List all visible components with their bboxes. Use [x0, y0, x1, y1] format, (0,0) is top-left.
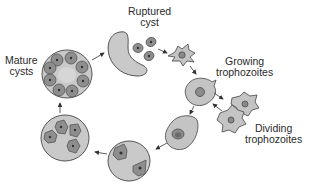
arrow-icon	[213, 104, 222, 111]
label-line: cyst	[128, 17, 171, 28]
arrow-icon	[156, 143, 167, 149]
mature-cyst-icon	[42, 50, 92, 98]
rounding-cell-icon	[165, 116, 198, 150]
arrow-icon	[95, 152, 107, 154]
life-cycle-diagram: Ruptured cyst Growing trophozoites Divid…	[0, 0, 309, 185]
ruptured-cyst-icon	[108, 32, 157, 76]
arrow-icon	[92, 53, 104, 60]
released-trophozoite-icon	[168, 44, 195, 66]
arrow-icon	[190, 66, 196, 74]
label-dividing-trophozoites: Dividing trophozoites	[245, 123, 302, 145]
arrow-icon	[214, 93, 223, 99]
label-mature-cysts: Mature cysts	[5, 55, 38, 77]
binucleate-cyst-icon	[108, 141, 150, 181]
arrow-icon	[190, 106, 194, 114]
label-growing-trophozoites: Growing trophozoites	[216, 56, 273, 78]
label-line: trophozoites	[245, 134, 302, 145]
label-line: trophozoites	[216, 67, 273, 78]
label-line: cysts	[5, 66, 38, 77]
arrow-icon	[158, 49, 167, 53]
quadrinucleate-cyst-icon	[41, 115, 89, 161]
label-ruptured-cyst: Ruptured cyst	[128, 6, 171, 28]
growing-trophozoite-icon	[185, 78, 216, 105]
